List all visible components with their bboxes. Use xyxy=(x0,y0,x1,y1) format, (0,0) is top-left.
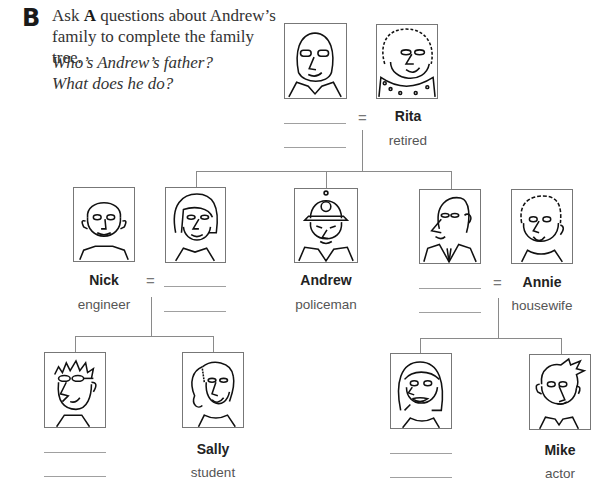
tree-line xyxy=(75,336,76,352)
tree-line xyxy=(420,338,421,353)
messy-hair-man-portrait-icon xyxy=(530,355,590,429)
nick-son-name-blank[interactable] xyxy=(44,452,106,453)
woman-bob-hair-portrait-icon xyxy=(166,188,225,262)
sally-portrait xyxy=(182,352,244,428)
nick-son-portrait xyxy=(44,352,106,428)
tree-line xyxy=(196,171,452,172)
grandmother-job: retired xyxy=(348,133,468,148)
instruction-pre: Ask xyxy=(52,6,84,25)
nick-portrait xyxy=(73,187,135,262)
short-hair-woman-portrait-icon xyxy=(512,190,572,263)
tree-line xyxy=(451,171,452,189)
spiky-hair-boy-glasses-portrait-icon xyxy=(45,353,105,427)
annie-name: Annie xyxy=(482,274,602,290)
mike-job: actor xyxy=(500,466,611,481)
tree-line xyxy=(213,336,214,352)
grandmother-name: Rita xyxy=(348,108,468,124)
bald-man-glasses-portrait-icon xyxy=(285,24,346,98)
annie-husband-portrait xyxy=(419,189,481,264)
tree-line xyxy=(420,338,562,339)
grandfather-job-blank[interactable] xyxy=(284,147,346,148)
long-hair-girl-portrait-icon xyxy=(391,354,451,428)
grandfather-name-blank[interactable] xyxy=(284,123,346,124)
instruction-bold: A xyxy=(84,6,96,25)
sally-job: student xyxy=(153,465,273,480)
annie-husband-name-blank[interactable] xyxy=(419,288,481,289)
annie-husband-job-blank[interactable] xyxy=(419,312,481,313)
tree-line xyxy=(326,171,327,188)
tree-line xyxy=(196,171,197,187)
annie-daughter-name-blank[interactable] xyxy=(390,453,452,454)
grandfather-portrait xyxy=(284,23,347,99)
nick-son-job-blank[interactable] xyxy=(44,476,106,477)
sally-name: Sally xyxy=(153,441,273,457)
annie-job: housewife xyxy=(482,298,602,313)
nick-wife-portrait xyxy=(165,187,226,263)
nick-wife-name-blank[interactable] xyxy=(164,286,226,287)
example-question-1: Who’s Andrew’s father? xyxy=(52,52,213,73)
mike-name: Mike xyxy=(500,442,611,458)
exercise-letter: B xyxy=(22,4,40,32)
mike-portrait xyxy=(529,354,591,430)
nick-job: engineer xyxy=(44,297,164,312)
tree-line xyxy=(561,338,562,354)
andrew-job: policeman xyxy=(266,297,386,312)
curly-hair-woman-portrait-icon xyxy=(377,25,437,98)
nick-wife-job-blank[interactable] xyxy=(164,311,226,312)
man-stubble-portrait-icon xyxy=(74,188,134,261)
married-symbol: = xyxy=(146,272,155,289)
bald-man-suit-portrait-icon xyxy=(420,190,480,263)
policeman-helmet-portrait-icon xyxy=(295,189,357,262)
annie-daughter-job-blank[interactable] xyxy=(390,477,452,478)
annie-portrait xyxy=(511,189,573,264)
andrew-portrait xyxy=(294,188,358,263)
andrew-name: Andrew xyxy=(266,272,386,288)
ponytail-girl-portrait-icon xyxy=(183,353,243,427)
annie-daughter-portrait xyxy=(390,353,452,429)
grandmother-portrait xyxy=(376,24,438,99)
example-question-2: What does he do? xyxy=(52,73,173,94)
tree-line xyxy=(75,336,214,337)
